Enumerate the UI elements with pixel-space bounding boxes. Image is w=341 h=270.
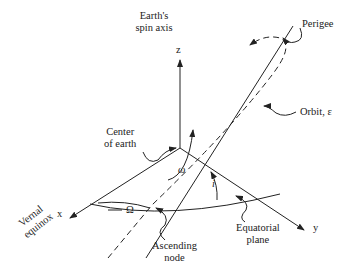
argument-of-perigee-symbol: ω — [178, 164, 185, 176]
orbit-diagram: Earth'sspin axis z Perigee Orbit, ε Cent… — [0, 0, 341, 270]
perigee-label: Perigee — [302, 18, 334, 30]
inclination-symbol: i — [212, 178, 215, 190]
spin-axis-label: Earth'sspin axis — [124, 10, 184, 34]
equatorial-plane-label: Equatorialplane — [236, 222, 280, 246]
z-axis-label: z — [176, 44, 181, 56]
x-axis-label: x — [57, 208, 62, 220]
diagram-lines — [0, 0, 341, 270]
raan-symbol: Ω — [126, 204, 134, 216]
y-axis-label: y — [313, 222, 318, 234]
x-axis — [70, 148, 180, 218]
orbit-label: Orbit, ε — [300, 106, 332, 118]
center-of-earth-label: Centerof earth — [104, 126, 136, 150]
ascending-node-label: Ascendingnode — [152, 240, 197, 264]
